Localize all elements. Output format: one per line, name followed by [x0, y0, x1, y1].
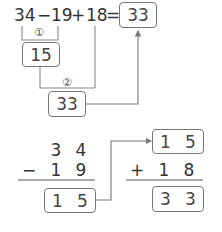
sub-top-ones: 4 — [74, 140, 88, 160]
plus-sign: + — [71, 5, 85, 25]
add-bottom-ones: 8 — [182, 160, 196, 180]
step-1-result-box: 15 — [22, 42, 60, 67]
sub-result-ones: 5 — [77, 191, 88, 211]
add-result-box: 3 3 — [152, 186, 204, 212]
operand-18: 18 — [86, 5, 108, 25]
add-top-tens: 1 — [160, 132, 171, 152]
sub-operator: − — [22, 160, 36, 180]
add-top-box: 1 5 — [152, 129, 204, 154]
sub-top-tens: 3 — [49, 140, 63, 160]
step-2-result-box: 33 — [48, 91, 86, 117]
sub-bottom-ones: 9 — [74, 160, 88, 180]
step-1-label: ① — [34, 27, 44, 39]
sub-result-box: 1 5 — [44, 188, 96, 213]
sub-bottom-tens: 1 — [49, 160, 63, 180]
answer-box: 33 — [119, 2, 157, 28]
sub-result-tens: 1 — [52, 191, 63, 211]
add-top-ones: 5 — [185, 132, 196, 152]
add-result-tens: 3 — [160, 189, 171, 209]
minus-sign: − — [37, 5, 51, 25]
step-2-label: ② — [62, 77, 72, 89]
operand-34: 34 — [14, 5, 36, 25]
add-bottom-tens: 1 — [157, 160, 171, 180]
operand-19: 19 — [51, 5, 73, 25]
add-operator: + — [130, 160, 144, 180]
add-result-ones: 3 — [185, 189, 196, 209]
